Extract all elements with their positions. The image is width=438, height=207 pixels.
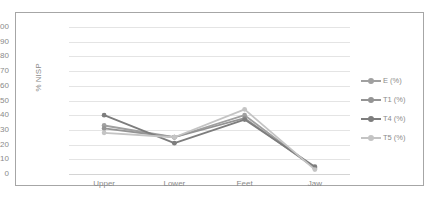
- series-svg: [69, 27, 350, 174]
- legend-marker-icon: [361, 95, 381, 104]
- y-tick-label: 10: [0, 155, 9, 163]
- y-axis-title: % NISP: [34, 48, 43, 108]
- legend-marker-icon: [361, 133, 381, 142]
- data-point-marker: [172, 141, 177, 146]
- chart-frame: % NISP 1009080706050403020100 UpperLower…: [15, 12, 424, 186]
- legend-marker-icon: [361, 76, 381, 85]
- x-tick-label: Upper: [69, 179, 139, 188]
- data-point-marker: [102, 113, 107, 118]
- series-layer: [69, 27, 350, 174]
- x-axis-line: [69, 174, 350, 175]
- y-tick-label: 60: [0, 82, 9, 90]
- legend-item[interactable]: T5 (%): [361, 128, 423, 147]
- y-tick-label: 70: [0, 67, 9, 75]
- data-point-marker: [172, 135, 177, 140]
- x-tick-label: Lower: [139, 179, 209, 188]
- legend-item[interactable]: T1 (%): [361, 90, 423, 109]
- y-tick-label: 50: [0, 97, 9, 105]
- x-tick-label: Jaw: [280, 179, 350, 188]
- legend-item[interactable]: E (%): [361, 71, 423, 90]
- y-tick-label: 20: [0, 141, 9, 149]
- data-point-marker: [242, 117, 247, 122]
- line-chart: % NISP 1009080706050403020100 UpperLower…: [16, 13, 425, 187]
- legend-label: T1 (%): [383, 95, 406, 104]
- data-point-marker: [312, 167, 317, 172]
- y-tick-label: 80: [0, 52, 9, 60]
- legend-item[interactable]: T4 (%): [361, 109, 423, 128]
- y-tick-label: 30: [0, 126, 9, 134]
- data-point-marker: [102, 126, 107, 131]
- legend-label: T4 (%): [383, 114, 406, 123]
- legend-label: T5 (%): [383, 133, 406, 142]
- y-tick-label: 40: [0, 111, 9, 119]
- x-tick-label: Feet: [210, 179, 280, 188]
- legend-marker-icon: [361, 114, 381, 123]
- legend: E (%)T1 (%)T4 (%)T5 (%): [361, 71, 423, 147]
- data-point-marker: [242, 107, 247, 112]
- y-tick-label: 0: [0, 170, 9, 178]
- y-tick-label: 90: [0, 38, 9, 46]
- legend-label: E (%): [383, 76, 402, 85]
- series-line: [104, 109, 315, 169]
- y-tick-label: 100: [0, 23, 9, 31]
- data-point-marker: [102, 130, 107, 135]
